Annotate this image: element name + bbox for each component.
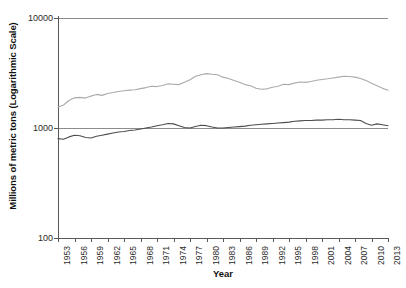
x-tick-mark-1968 [141,238,142,242]
x-tick-mark-1974 [174,238,175,242]
x-tick-label-1989: 1989 [260,246,270,265]
x-tick-label-2010: 2010 [376,246,386,265]
x-tick-mark-1959 [91,238,92,242]
series-line-lower-series [58,119,388,139]
x-tick-label-1962: 1962 [112,246,122,265]
x-tick-label-1971: 1971 [161,246,171,265]
series-line-upper-series [58,74,388,107]
plot-area: 10000 1000 100 1953195619591962196519681… [58,18,388,238]
x-tick-mark-1953 [58,238,59,242]
x-tick-label-1974: 1974 [178,246,188,265]
x-tick-label-1980: 1980 [211,246,221,265]
x-tick-mark-1971 [157,238,158,242]
x-tick-mark-1983 [223,238,224,242]
x-tick-label-2001: 2001 [326,246,336,265]
x-tick-label-1965: 1965 [128,246,138,265]
x-tick-label-1953: 1953 [62,246,72,265]
series-lines [58,18,388,238]
x-tick-label-2004: 2004 [343,246,353,265]
x-tick-label-1956: 1956 [79,246,89,265]
x-tick-label-1992: 1992 [277,246,287,265]
x-tick-mark-1995 [289,238,290,242]
y-axis-title: Millions of metric tons (Logarithmic Sca… [2,0,22,260]
x-tick-mark-1977 [190,238,191,242]
x-tick-mark-1992 [273,238,274,242]
x-tick-mark-2001 [322,238,323,242]
x-tick-mark-2004 [339,238,340,242]
x-axis-title: Year [58,268,388,279]
x-tick-label-1995: 1995 [293,246,303,265]
chart-figure: Millions of metric tons (Logarithmic Sca… [0,0,406,288]
x-tick-mark-1986 [240,238,241,242]
y-tick-label-10000: 10000 [28,13,53,23]
x-tick-mark-1980 [207,238,208,242]
x-tick-mark-1989 [256,238,257,242]
x-tick-mark-1965 [124,238,125,242]
x-tick-mark-1956 [75,238,76,242]
x-tick-mark-2010 [372,238,373,242]
x-tick-label-1986: 1986 [244,246,254,265]
x-tick-label-2007: 2007 [359,246,369,265]
x-tick-label-1968: 1968 [145,246,155,265]
x-tick-label-1998: 1998 [310,246,320,265]
x-tick-label-1983: 1983 [227,246,237,265]
x-tick-mark-2013 [388,238,389,242]
y-tick-label-1000: 1000 [33,123,53,133]
x-tick-mark-1962 [108,238,109,242]
x-tick-mark-1998 [306,238,307,242]
y-tick-label-100: 100 [38,233,53,243]
x-tick-label-1959: 1959 [95,246,105,265]
x-tick-mark-2007 [355,238,356,242]
x-tick-label-2013: 2013 [392,246,402,265]
x-tick-label-1977: 1977 [194,246,204,265]
